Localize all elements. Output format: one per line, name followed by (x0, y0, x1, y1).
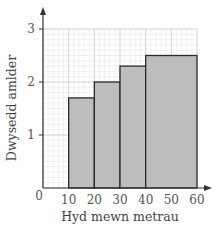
histogram-chart: 0102030405060 123 Hyd mewn metrau Dwysed… (0, 0, 224, 230)
bars (69, 56, 197, 189)
histogram-bar (120, 66, 146, 188)
x-tick-label: 30 (112, 193, 127, 207)
histogram-bar (94, 82, 120, 188)
y-tick-label: 1 (27, 128, 35, 142)
y-axis-arrow-icon (40, 7, 46, 15)
x-tick-label: 50 (164, 193, 179, 207)
x-tick-label: 40 (138, 193, 153, 207)
y-tick-labels: 123 (27, 22, 43, 142)
histogram-bar (146, 56, 197, 189)
y-axis-label: Dwysedd amlder (4, 55, 19, 161)
histogram-bar (69, 98, 95, 188)
x-axis-label: Hyd mewn metrau (61, 209, 179, 224)
x-tick-label: 10 (61, 193, 76, 207)
x-tick-label: 60 (189, 193, 204, 207)
x-tick-label: 0 (35, 189, 43, 203)
y-tick-label: 3 (27, 22, 35, 36)
x-axis-arrow-icon (204, 185, 212, 191)
y-tick-label: 2 (27, 75, 35, 89)
x-tick-labels: 0102030405060 (35, 189, 204, 207)
x-tick-label: 20 (87, 193, 102, 207)
